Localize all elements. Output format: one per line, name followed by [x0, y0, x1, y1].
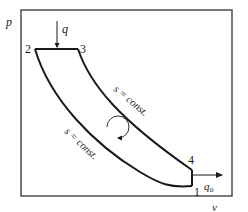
- point-4-label: 4: [188, 153, 194, 167]
- y-axis-label: p: [5, 15, 12, 29]
- pv-diagram: p v q qo 2 3 4 1 s = const. s = const.: [0, 0, 248, 212]
- heat-out-label: qo: [204, 180, 214, 194]
- point-2-label: 2: [25, 42, 31, 56]
- point-1-label: 1: [194, 185, 200, 199]
- x-axis-label: v: [212, 201, 217, 212]
- process-1-2-isentrope: [35, 49, 192, 186]
- isentrope-label-lower: s = const.: [63, 125, 101, 161]
- heat-in-label: q: [62, 22, 68, 36]
- isentrope-label-upper: s = const.: [112, 83, 151, 118]
- point-3-label: 3: [80, 42, 86, 56]
- cycle-direction-icon: [107, 116, 129, 138]
